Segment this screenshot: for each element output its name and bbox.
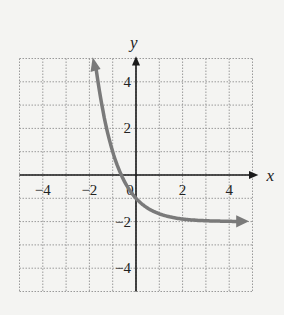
y-axis-arrow-icon xyxy=(132,56,140,65)
x-tick-label: −4 xyxy=(35,182,51,198)
y-tick-label: 4 xyxy=(124,74,132,90)
y-axis-label: y xyxy=(128,33,138,52)
axes: xy xyxy=(20,33,275,291)
x-tick-label: −2 xyxy=(81,182,97,198)
x-tick-label: 4 xyxy=(225,182,233,198)
x-tick-label: 2 xyxy=(179,182,187,198)
x-axis-arrow-icon xyxy=(249,171,258,179)
curve-arrow-up-icon xyxy=(91,57,101,72)
function-graph: xy −4−202442−2−4 xyxy=(0,0,284,315)
y-tick-label: 2 xyxy=(124,120,132,136)
y-tick-label: −4 xyxy=(115,260,131,276)
x-axis-label: x xyxy=(265,166,274,185)
y-tick-label: −2 xyxy=(115,214,131,230)
curve-arrow-right-icon xyxy=(236,215,249,227)
curve-arrows xyxy=(91,57,249,227)
